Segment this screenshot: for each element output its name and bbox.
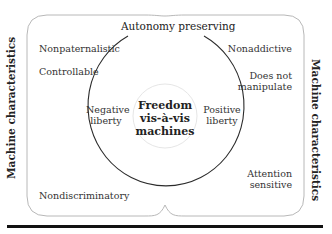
positive-liberty-label: Positive liberty [202, 104, 242, 126]
item-nondiscriminatory: Nondiscriminatory [39, 190, 129, 201]
item-attention-sensitive: Attention sensitive [247, 168, 292, 190]
center-title-line1: Freedom [125, 99, 205, 112]
center-title-line3: machines [125, 125, 205, 138]
item-nonaddictive: Nonaddictive [228, 43, 292, 54]
item-controllable: Controllable [39, 66, 99, 77]
bottom-rule [7, 225, 323, 228]
center-title: Freedom vis-à-vis machines [125, 99, 205, 138]
right-side-label: Machine characteristics [310, 59, 322, 179]
negative-liberty-label: Negative liberty [86, 104, 126, 126]
left-side-label: Machine characteristics [5, 59, 17, 179]
autonomy-preserving-title: Autonomy preserving [121, 20, 236, 32]
item-does-not-manipulate: Does not manipulate [238, 70, 292, 92]
center-title-line2: vis-à-vis [125, 112, 205, 125]
item-nonpaternalistic: Nonpaternalistic [39, 43, 120, 54]
